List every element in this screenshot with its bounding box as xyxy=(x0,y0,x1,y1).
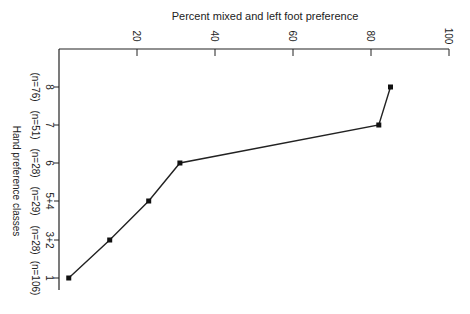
category-tick-label: 1 xyxy=(44,275,55,281)
category-tick-label: 8 xyxy=(44,84,55,90)
value-tick-label: 80 xyxy=(365,30,376,42)
value-tick-label: 100 xyxy=(443,28,454,45)
sample-size-label: (n=106) xyxy=(30,261,41,296)
category-tick-label: 5+4 xyxy=(44,193,55,210)
data-line xyxy=(69,87,391,278)
sample-size-label: (n=51) xyxy=(30,110,41,139)
sample-size-label: (n=29) xyxy=(30,186,41,215)
line-chart: 20406080100 8(n=76)7(n=51)6(n=28)5+4(n=2… xyxy=(0,0,470,314)
category-tick-label: 7 xyxy=(44,122,55,128)
value-tick-label: 40 xyxy=(209,30,220,42)
data-point-marker xyxy=(107,238,112,243)
data-point-marker xyxy=(146,199,151,204)
value-ticks: 20406080100 xyxy=(131,28,454,56)
data-point-marker xyxy=(376,123,381,128)
category-tick-label: 3+2 xyxy=(44,232,55,249)
sample-size-label: (n=28) xyxy=(30,148,41,177)
value-tick-label: 60 xyxy=(287,30,298,42)
value-tick-label: 20 xyxy=(131,30,142,42)
data-point-marker xyxy=(388,85,393,90)
category-ticks: 8(n=76)7(n=51)6(n=28)5+4(n=29)3+2(n=28)1… xyxy=(30,72,59,295)
category-axis-title: Hand preference classes xyxy=(11,126,22,237)
category-tick-label: 6 xyxy=(44,160,55,166)
sample-size-label: (n=76) xyxy=(30,72,41,101)
sample-size-label: (n=28) xyxy=(30,225,41,254)
data-point-marker xyxy=(177,161,182,166)
data-point-marker xyxy=(66,276,71,281)
data-markers xyxy=(66,85,393,281)
